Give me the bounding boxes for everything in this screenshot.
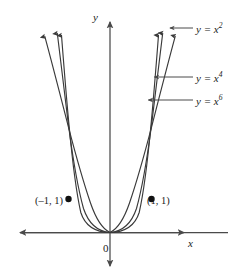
curve-x6-left [62,35,111,232]
curve-label-x2: y = x2 [196,22,222,35]
point-marker-minus1-1 [65,196,71,202]
curve-label-x4-lhs: y = x [196,72,219,84]
curve-x4-left [57,33,110,232]
x-axis-label: x [188,238,193,249]
point-label-minus1-1: (–1, 1) [35,196,63,207]
origin-label: 0 [103,243,109,254]
curve-label-x6-lhs: y = x [196,95,219,107]
curve-label-x2-lhs: y = x [196,23,219,35]
curve-label-x6-exponent: 6 [219,93,223,102]
y-axis-label: y [93,12,98,23]
curve-label-x4: y = x4 [196,71,222,84]
point-label-1-1: (1, 1) [147,196,170,207]
annotation-arrows-group [149,28,194,100]
curve-label-x4-exponent: 4 [219,70,223,79]
curve-label-x6: y = x6 [196,94,222,107]
curve-label-x2-exponent: 2 [219,21,223,30]
plot-canvas [0,0,247,277]
power-functions-figure: y = x2 y = x4 y = x6 (–1, 1) (1, 1) x y … [0,0,247,277]
